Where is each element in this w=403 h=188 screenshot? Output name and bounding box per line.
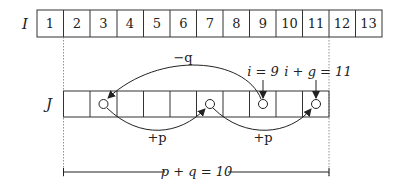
array-i: 1 2 3 4 5 6 7 8 9 10 11 12 13 [37, 10, 382, 37]
array-i-cell: 6 [179, 16, 187, 31]
array-i-cell: 11 [308, 16, 325, 31]
array-i-cell: 13 [360, 16, 377, 31]
array-j-label: J [43, 95, 53, 113]
array-i-label: I [21, 15, 29, 33]
array-i-cell: 7 [206, 16, 214, 31]
plus-p-label-2: +p [253, 130, 272, 145]
position-marker-11 [312, 100, 321, 109]
array-i-cell: 2 [73, 16, 81, 31]
minus-q-label: −q [173, 50, 192, 65]
array-i-cell: 12 [334, 16, 351, 31]
minus-q-arc [108, 65, 261, 99]
array-i-cell: 8 [232, 16, 240, 31]
span-label: p + q = 10 [161, 164, 233, 179]
i-label: i = 9 [247, 64, 279, 79]
plus-p-arc-2 [213, 108, 311, 130]
diagram-canvas: I 1 2 3 4 5 6 7 8 9 10 11 12 13 J [0, 0, 403, 188]
position-marker-9 [259, 100, 268, 109]
plus-p-label-1: +p [147, 130, 166, 145]
array-i-cell: 3 [99, 16, 107, 31]
array-i-cell: 9 [259, 16, 267, 31]
ig-label: i + g = 11 [284, 64, 351, 79]
position-marker-3 [99, 100, 108, 109]
array-i-cell: 10 [281, 16, 298, 31]
array-i-cell: 4 [126, 16, 134, 31]
position-marker-7 [206, 100, 215, 109]
array-i-cell: 5 [153, 16, 161, 31]
plus-p-arc-1 [107, 108, 205, 130]
array-i-cell: 1 [46, 16, 54, 31]
